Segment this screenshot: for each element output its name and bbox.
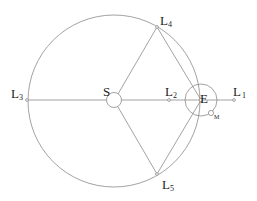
sun-l5-line bbox=[118, 107, 157, 174]
sun-label: S bbox=[103, 84, 110, 99]
l2-label: L2 bbox=[165, 84, 177, 100]
l1-label: L1 bbox=[233, 84, 246, 100]
earth-l4-line bbox=[157, 27, 201, 100]
l3-marker bbox=[26, 99, 29, 102]
sun-l4-line bbox=[118, 27, 157, 94]
l1-marker bbox=[233, 99, 236, 102]
earth-l5-line bbox=[157, 100, 201, 174]
l5-marker bbox=[156, 173, 159, 176]
l2-marker bbox=[168, 99, 171, 102]
lagrange-diagram: S E M L1 L2 L3 L4 L5 bbox=[0, 0, 257, 201]
l3-label: L3 bbox=[11, 86, 23, 102]
moon-circle bbox=[208, 110, 213, 115]
earth-label: E bbox=[200, 91, 208, 106]
l5-label: L5 bbox=[162, 177, 174, 193]
l4-label: L4 bbox=[160, 13, 172, 29]
l4-marker bbox=[156, 26, 159, 29]
moon-label: M bbox=[214, 114, 220, 120]
